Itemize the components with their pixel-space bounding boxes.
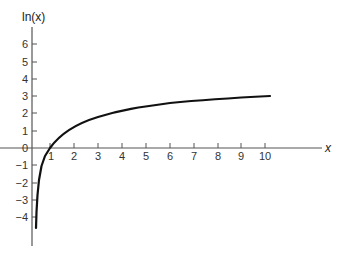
- y-tick-label: 2: [22, 107, 28, 119]
- x-tick-label: 2: [71, 150, 77, 162]
- x-tick-label: 8: [215, 150, 221, 162]
- y-tick-label: 3: [22, 90, 28, 102]
- y-tick-label: 5: [22, 56, 28, 68]
- y-tick-label: 0: [22, 142, 28, 154]
- x-tick-label: 10: [259, 150, 271, 162]
- ln-curve: [36, 96, 270, 228]
- y-tick-label: −1: [15, 159, 28, 171]
- x-tick-labels: 1 2 3 4 5 6 7 8 9 10: [48, 150, 271, 162]
- y-tick-label: 6: [22, 38, 28, 50]
- y-axis-title: ln(x): [22, 10, 45, 24]
- x-tick-label: 9: [238, 150, 244, 162]
- x-tick-label: 4: [119, 150, 125, 162]
- y-tick-label: −2: [15, 177, 28, 189]
- x-tick-label: 5: [143, 150, 149, 162]
- x-axis-title: x: [324, 141, 332, 155]
- ln-plot: ln(x) x 6 5 4 3 2 1 0 −1 −2 −3 −4: [0, 0, 344, 260]
- y-tick-label: −3: [15, 194, 28, 206]
- y-tick-label: −4: [15, 211, 28, 223]
- x-ticks: [50, 143, 265, 148]
- y-tick-label: 1: [22, 125, 28, 137]
- x-tick-label: 6: [167, 150, 173, 162]
- y-ticks: [32, 44, 37, 217]
- y-tick-labels: 6 5 4 3 2 1 0 −1 −2 −3 −4: [15, 38, 28, 223]
- y-tick-label: 4: [22, 73, 28, 85]
- x-tick-label: 3: [95, 150, 101, 162]
- x-tick-label: 7: [191, 150, 197, 162]
